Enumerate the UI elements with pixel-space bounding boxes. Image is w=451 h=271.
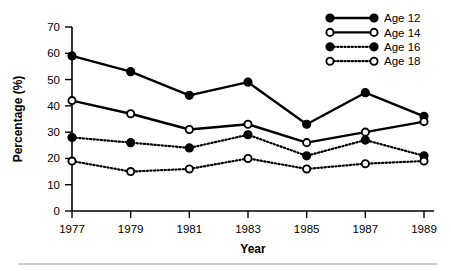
data-point: [244, 131, 252, 139]
x-tick-label: 1983: [235, 223, 261, 235]
data-point: [361, 89, 369, 97]
data-point: [362, 129, 369, 136]
series-line: [72, 56, 424, 124]
data-point: [362, 160, 369, 167]
x-tick-label: 1977: [59, 223, 85, 235]
data-point: [68, 52, 76, 60]
x-tick-label: 1979: [118, 223, 144, 235]
x-tick-label: 1981: [177, 223, 203, 235]
legend-item-age-12: Age 12: [326, 12, 420, 24]
x-tick-label: 1985: [294, 223, 320, 235]
data-point: [185, 91, 193, 99]
data-point: [303, 139, 310, 146]
chart-figure: 010203040506070 197719791981198319851987…: [0, 0, 451, 271]
chart-legend: Age 12Age 14Age 16Age 18: [326, 12, 421, 67]
legend-label: Age 16: [384, 41, 420, 53]
legend-marker: [326, 58, 333, 65]
data-point: [420, 157, 427, 164]
data-point: [244, 155, 251, 162]
x-axis-tick-labels: 1977197919811983198519871989: [59, 223, 437, 235]
axes-group: [72, 27, 434, 211]
y-tick-label: 10: [47, 179, 60, 191]
y-tick-label: 70: [47, 21, 60, 33]
legend-item-age-14: Age 14: [326, 27, 421, 39]
y-tick-label: 20: [47, 152, 60, 164]
data-point: [127, 68, 135, 76]
data-point: [185, 144, 193, 152]
legend-marker: [370, 43, 378, 51]
data-point: [303, 152, 311, 160]
legend-label: Age 12: [384, 12, 420, 24]
legend-marker: [370, 29, 377, 36]
data-point: [68, 134, 76, 142]
legend-label: Age 18: [384, 55, 420, 67]
data-point: [244, 121, 251, 128]
data-point: [244, 78, 252, 86]
legend-marker: [326, 14, 334, 22]
x-axis-title: Year: [240, 242, 266, 256]
y-axis-title: Percentage (%): [11, 76, 25, 163]
y-tick-label: 40: [47, 100, 60, 112]
legend-marker: [370, 58, 377, 65]
y-tick-label: 0: [54, 205, 60, 217]
x-axis-ticks: [72, 211, 424, 218]
x-tick-label: 1987: [353, 223, 379, 235]
series-layer: [68, 52, 428, 175]
legend-item-age-18: Age 18: [326, 55, 420, 67]
legend-marker: [326, 29, 333, 36]
y-axis-tick-labels: 010203040506070: [47, 21, 60, 217]
data-point: [186, 126, 193, 133]
y-tick-label: 50: [47, 74, 60, 86]
data-point: [303, 165, 310, 172]
data-point: [361, 136, 369, 144]
legend-label: Age 14: [384, 27, 421, 39]
data-point: [68, 97, 75, 104]
line-chart: 010203040506070 197719791981198319851987…: [0, 0, 451, 271]
series-age-18: [68, 155, 427, 175]
data-point: [186, 165, 193, 172]
legend-marker: [370, 14, 378, 22]
x-tick-label: 1989: [411, 223, 437, 235]
data-point: [420, 118, 427, 125]
data-point: [127, 139, 135, 147]
data-point: [68, 157, 75, 164]
data-point: [127, 168, 134, 175]
y-tick-label: 60: [47, 47, 60, 59]
legend-item-age-16: Age 16: [326, 41, 420, 53]
legend-marker: [326, 43, 334, 51]
y-tick-label: 30: [47, 126, 60, 138]
data-point: [303, 120, 311, 128]
data-point: [127, 110, 134, 117]
